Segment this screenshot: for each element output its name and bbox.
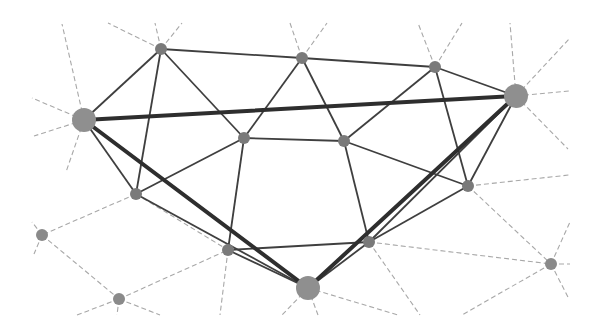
node-B [155,43,167,55]
node-N [113,293,125,305]
node-D [429,61,441,73]
dashed-edge-I-O [468,186,551,264]
edge-B-C [161,49,302,58]
dashed-stub-edge [369,242,420,315]
node-I [462,180,474,192]
network-diagram [0,0,597,326]
dashed-stub-edge [119,299,160,315]
dashed-stub-edge [302,23,327,58]
node-K [363,236,375,248]
edge-I-K [369,186,468,242]
edge-C-G [302,58,344,141]
node-M [36,229,48,241]
dashed-stub-edge [462,264,551,315]
hub-node-L [296,276,320,300]
edge-G-K [344,141,369,242]
edge-E-I [468,96,516,186]
node-O [545,258,557,270]
dashed-stub-edge [435,23,462,67]
dashed-stub-edge [418,23,435,67]
dashed-edge-M-N [42,235,119,299]
edge-A-B [84,49,161,120]
hub-node-A [72,108,96,132]
dashed-stub-edge [551,222,570,264]
edge-A-H [84,120,136,194]
edge-H-L [136,194,308,288]
dashed-edge-N-J [119,250,228,299]
thick-edge-A-E [84,96,516,120]
hub-node-E [504,84,528,108]
dashed-stub-edge [108,23,161,49]
edge-B-F [161,49,244,138]
edge-C-D [302,58,435,67]
node-F [238,132,250,144]
node-J [222,244,234,256]
node-C [296,52,308,64]
thick-edge-A-L [84,120,308,288]
dashed-stub-edge [220,250,228,315]
edge-D-E [435,67,516,96]
dashed-stub-edge [77,299,119,315]
node-G [338,135,350,147]
dashed-stub-edges [32,23,570,315]
dashed-edge-K-O [369,242,551,264]
edge-C-F [244,58,302,138]
dashed-stub-edge [308,288,398,315]
dashed-edge-H-M [42,194,136,235]
dashed-stub-edge [468,175,569,186]
edge-G-I [344,141,468,186]
edge-B-H [136,49,161,194]
node-H [130,188,142,200]
edge-F-H [136,138,244,194]
dashed-stub-edge [62,24,84,120]
thick-edge-E-L [308,96,516,288]
edge-F-G [244,138,344,141]
